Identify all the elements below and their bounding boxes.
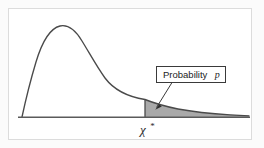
chi-superscript-star: * [150,121,155,131]
chi-glyph: χ [138,122,146,137]
chi-square-figure: Probability p χ * [0,0,264,148]
probability-callout-variable: p [214,69,220,80]
figure-canvas: Probability p χ * [0,0,264,148]
probability-callout-prefix: Probability [163,69,208,80]
